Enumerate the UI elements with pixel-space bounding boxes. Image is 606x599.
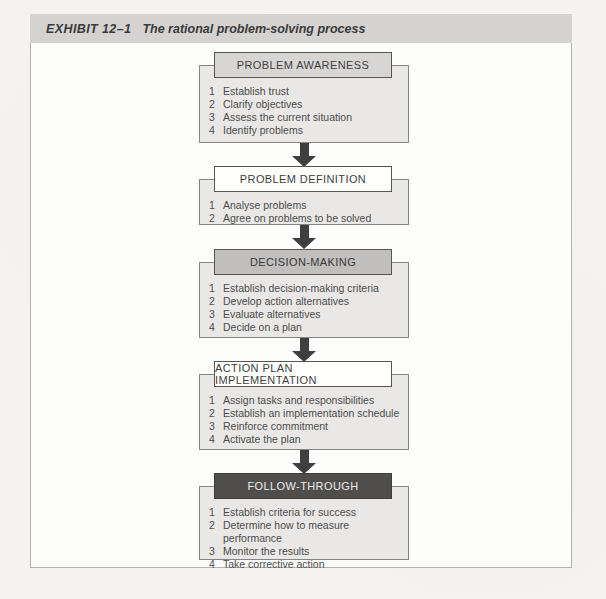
item-text: Analyse problems <box>223 199 306 212</box>
arrow-stem <box>300 225 309 238</box>
item-number: 1 <box>209 282 217 295</box>
item-text: Establish trust <box>223 85 289 98</box>
item-text: Assess the current situation <box>223 111 352 124</box>
list-item: 2 Clarify objectives <box>209 98 400 111</box>
exhibit-title: The rational problem-solving process <box>142 22 365 36</box>
list-item: 4 Activate the plan <box>209 433 400 446</box>
list-item: 1 Establish decision-making criteria <box>209 282 400 295</box>
item-number: 4 <box>209 433 217 446</box>
stage-problem-definition: PROBLEM DEFINITION 1 Analyse problems 2 … <box>199 179 409 225</box>
stage-decision-making: DECISION-MAKING 1 Establish decision-mak… <box>199 262 409 338</box>
list-item: 2 Determine how to measure performance <box>209 519 400 545</box>
stage-follow-through: FOLLOW-THROUGH 1 Establish criteria for … <box>199 486 409 560</box>
item-number: 1 <box>209 394 217 407</box>
item-number: 2 <box>209 98 217 111</box>
item-number: 2 <box>209 519 217 545</box>
down-arrow <box>292 225 316 249</box>
item-text: Decide on a plan <box>223 321 302 334</box>
exhibit-panel: EXHIBIT 12–1 The rational problem-solvin… <box>30 14 572 568</box>
item-text: Assign tasks and responsibilities <box>223 394 374 407</box>
item-number: 1 <box>209 85 217 98</box>
stage-title: PROBLEM AWARENESS <box>237 59 370 71</box>
item-number: 1 <box>209 506 217 519</box>
down-arrow <box>292 143 316 167</box>
item-text: Agree on problems to be solved <box>223 212 371 225</box>
page-background: EXHIBIT 12–1 The rational problem-solvin… <box>0 0 606 599</box>
item-number: 2 <box>209 212 217 225</box>
stage-title: FOLLOW-THROUGH <box>247 480 358 492</box>
stage-header: PROBLEM DEFINITION <box>214 166 392 192</box>
item-number: 3 <box>209 308 217 321</box>
stage-header: DECISION-MAKING <box>214 249 392 275</box>
item-text: Determine how to measure performance <box>223 519 400 545</box>
item-number: 2 <box>209 295 217 308</box>
item-text: Develop action alternatives <box>223 295 349 308</box>
exhibit-label: EXHIBIT 12–1 <box>46 22 131 36</box>
arrow-stem <box>300 143 309 156</box>
item-number: 1 <box>209 199 217 212</box>
list-item: 3 Reinforce commitment <box>209 420 400 433</box>
stage-header: ACTION PLAN IMPLEMENTATION <box>214 361 392 387</box>
list-item: 3 Evaluate alternatives <box>209 308 400 321</box>
exhibit-titlebar: EXHIBIT 12–1 The rational problem-solvin… <box>30 14 572 43</box>
stage-title: PROBLEM DEFINITION <box>240 173 366 185</box>
item-text: Establish criteria for success <box>223 506 356 519</box>
item-text: Activate the plan <box>223 433 301 446</box>
item-text: Establish decision-making criteria <box>223 282 379 295</box>
item-text: Clarify objectives <box>223 98 302 111</box>
list-item: 4 Decide on a plan <box>209 321 400 334</box>
stage-title: ACTION PLAN IMPLEMENTATION <box>215 362 391 386</box>
item-number: 4 <box>209 124 217 137</box>
list-item: 1 Establish trust <box>209 85 400 98</box>
item-number: 4 <box>209 558 217 571</box>
down-arrow <box>292 338 316 362</box>
list-item: 2 Develop action alternatives <box>209 295 400 308</box>
list-item: 4 Take corrective action <box>209 558 400 571</box>
item-text: Identify problems <box>223 124 303 137</box>
list-item: 2 Establish an implementation schedule <box>209 407 400 420</box>
list-item: 3 Assess the current situation <box>209 111 400 124</box>
list-item: 2 Agree on problems to be solved <box>209 212 400 225</box>
item-text: Monitor the results <box>223 545 309 558</box>
item-text: Evaluate alternatives <box>223 308 320 321</box>
list-item: 4 Identify problems <box>209 124 400 137</box>
stage-title: DECISION-MAKING <box>250 256 356 268</box>
item-number: 2 <box>209 407 217 420</box>
stage-action-plan-implementation: ACTION PLAN IMPLEMENTATION 1 Assign task… <box>199 374 409 450</box>
list-item: 3 Monitor the results <box>209 545 400 558</box>
item-number: 3 <box>209 111 217 124</box>
arrow-head <box>292 238 316 249</box>
list-item: 1 Analyse problems <box>209 199 400 212</box>
stage-problem-awareness: PROBLEM AWARENESS 1 Establish trust 2 Cl… <box>199 65 409 143</box>
down-arrow <box>292 450 316 474</box>
arrow-stem <box>300 450 309 463</box>
item-text: Reinforce commitment <box>223 420 328 433</box>
item-text: Establish an implementation schedule <box>223 407 399 420</box>
item-number: 3 <box>209 545 217 558</box>
stage-header: FOLLOW-THROUGH <box>214 473 392 499</box>
item-text: Take corrective action <box>223 558 325 571</box>
arrow-stem <box>300 338 309 351</box>
list-item: 1 Establish criteria for success <box>209 506 400 519</box>
item-number: 4 <box>209 321 217 334</box>
item-number: 3 <box>209 420 217 433</box>
stage-header: PROBLEM AWARENESS <box>214 52 392 78</box>
list-item: 1 Assign tasks and responsibilities <box>209 394 400 407</box>
